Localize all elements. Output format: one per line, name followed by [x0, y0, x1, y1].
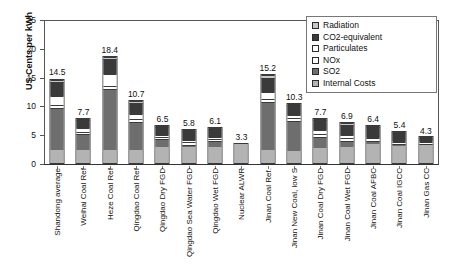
bar-value-label: 18.4: [102, 45, 119, 55]
stacked-bar-chart: US Cents per kWh 0510152025 14.57.718.41…: [0, 0, 449, 276]
bar-segment: [103, 59, 116, 74]
bar-slot: 3.3: [228, 20, 254, 164]
y-axis-tick-mark: [40, 164, 44, 165]
bar-segment: [51, 96, 64, 105]
bar-segment: [103, 89, 116, 149]
bar-segment: [288, 151, 301, 163]
bar-segment: [209, 147, 222, 163]
bar-segment: [51, 82, 64, 96]
x-axis-tick-label: Shandong average: [53, 168, 62, 236]
legend-label: NOx: [323, 55, 340, 67]
x-axis-tick-label: Weihai Coal Ref: [79, 168, 88, 226]
bar-value-label: 5.4: [394, 120, 406, 130]
bar-segment: [77, 150, 90, 163]
stacked-bar[interactable]: [102, 56, 117, 164]
bar-slot: 10.7: [123, 20, 149, 164]
x-label-slot: Jinan Coal Ref.: [255, 166, 281, 274]
bar-slot: 5.8: [176, 20, 202, 164]
stacked-bar[interactable]: [339, 122, 354, 164]
x-axis-tick-label: Heze Coal Ref: [105, 168, 114, 220]
legend-item[interactable]: Internal Costs: [312, 78, 432, 90]
stacked-bar[interactable]: [287, 103, 302, 164]
bar-value-label: 10.7: [128, 89, 145, 99]
bar-segment: [156, 127, 169, 135]
stacked-bar[interactable]: [129, 100, 144, 164]
x-label-slot: Qingdao Wet FGD: [202, 166, 228, 274]
x-axis-tick-label: Nuclear ALWR: [237, 168, 246, 220]
stacked-bar[interactable]: [392, 131, 407, 164]
stacked-bar[interactable]: [418, 136, 433, 164]
bar-value-label: 6.4: [367, 114, 379, 124]
y-axis-tick-label: 10: [16, 101, 36, 111]
legend-item[interactable]: Radiation: [312, 20, 432, 32]
x-label-slot: Qingdao Coal Ref: [123, 166, 149, 274]
bar-slot: 7.7: [70, 20, 96, 164]
x-label-slot: Jinan Coal Wet FGD: [334, 166, 360, 274]
bar-segment: [77, 120, 90, 129]
bar-segment: [156, 139, 169, 147]
bar-value-label: 14.5: [49, 67, 66, 77]
legend-item[interactable]: CO2-equivalent: [312, 32, 432, 44]
legend-label: CO2-equivalent: [323, 32, 382, 44]
stacked-bar[interactable]: [50, 79, 65, 164]
bar-segment: [314, 137, 327, 148]
x-axis-tick-label: Jinan Coal Ref.: [263, 168, 272, 223]
stacked-bar[interactable]: [76, 118, 91, 164]
bar-segment: [77, 134, 90, 150]
legend-item[interactable]: SO2: [312, 66, 432, 78]
bar-segment: [288, 105, 301, 114]
legend-swatch-icon: [312, 80, 319, 87]
legend-label: Particulates: [323, 43, 367, 55]
x-axis-tick-label: Jinan Coal IGCC: [395, 168, 404, 228]
x-axis-tick-label: Qingdao Wet FGD: [211, 168, 220, 234]
legend-swatch-icon: [312, 22, 319, 29]
stacked-bar[interactable]: [313, 118, 328, 164]
bar-value-label: 5.8: [183, 118, 195, 128]
legend-swatch-icon: [312, 57, 319, 64]
bar-segment: [261, 92, 274, 99]
x-label-slot: Jinan Coal AFBC: [360, 166, 386, 274]
bar-slot: 6.1: [202, 20, 228, 164]
legend-swatch-icon: [312, 68, 319, 75]
stacked-bar[interactable]: [155, 125, 170, 164]
legend-label: Internal Costs: [323, 78, 375, 90]
y-axis-tick-label: 0: [16, 159, 36, 169]
bar-segment: [367, 144, 380, 163]
bar-segment: [51, 150, 64, 163]
stacked-bar[interactable]: [234, 143, 249, 164]
bar-value-label: 6.5: [157, 114, 169, 124]
bar-segment: [367, 127, 380, 136]
bar-value-label: 10.3: [286, 92, 303, 102]
bar-segment: [419, 145, 432, 163]
bar-segment: [261, 102, 274, 150]
stacked-bar[interactable]: [181, 129, 196, 164]
bar-segment: [103, 74, 116, 86]
stacked-bar[interactable]: [260, 74, 275, 164]
legend-item[interactable]: NOx: [312, 55, 432, 67]
stacked-bar[interactable]: [208, 127, 223, 164]
bar-segment: [261, 150, 274, 163]
x-label-slot: Weihai Coal Ref: [70, 166, 96, 274]
x-axis-tick-label: Qingdao Coal Ref: [132, 168, 141, 232]
x-label-slot: Qingdao Sea Water FGD: [176, 166, 202, 274]
x-axis-labels: Shandong averageWeihai Coal RefHeze Coal…: [44, 166, 439, 274]
x-axis-tick-label: Jinan Coal Wet FGD: [342, 168, 351, 241]
x-axis-tick-label: Jinan Gas CC: [421, 168, 430, 218]
bar-segment: [261, 78, 274, 92]
bar-segment: [235, 144, 248, 163]
x-label-slot: Heze Coal Ref: [97, 166, 123, 274]
y-axis-tick-label: 20: [16, 44, 36, 54]
stacked-bar[interactable]: [366, 125, 381, 164]
x-axis-tick-label: Jinan Coal Dry FGD: [316, 168, 325, 240]
bar-value-label: 15.2: [260, 63, 277, 73]
bar-segment: [51, 108, 64, 150]
x-label-slot: Shandong average: [44, 166, 70, 274]
x-label-slot: Jinan Gas CC: [413, 166, 439, 274]
x-label-slot: Nuclear ALWR: [228, 166, 254, 274]
bar-segment: [182, 131, 195, 140]
legend-swatch-icon: [312, 45, 319, 52]
bar-slot: 18.4: [97, 20, 123, 164]
legend-item[interactable]: Particulates: [312, 43, 432, 55]
y-axis-tick-label: 5: [16, 130, 36, 140]
bar-segment: [103, 150, 116, 163]
